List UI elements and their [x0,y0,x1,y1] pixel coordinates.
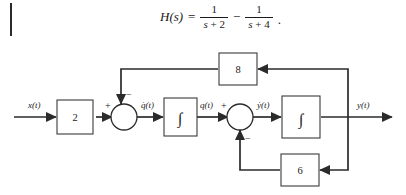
term1-den-variable: s [203,18,207,30]
equals-sign: = [188,9,195,25]
label-q-signal: q(t) [200,100,213,110]
fraction-term-2: 1 s + 4 [245,4,273,30]
wire-output-tap-to-gain6 [320,117,348,170]
summing-junction-1[interactable] [111,104,137,130]
term1-den-constant: 2 [219,18,225,30]
block-diagram: 2 ∫ ∫ 8 6 + − + − x(t) q̇(t) q(t) ẏ(t) … [0,48,406,195]
label-qdot-signal: q̇(t) [141,100,154,110]
summer2-plus-sign: + [221,100,227,111]
term1-den-operator: + [210,18,216,30]
label-output-signal: y(t) [356,100,370,110]
equation-terminator: . [278,12,281,30]
term2-denominator: s + 4 [245,18,273,31]
term2-den-operator: + [255,18,261,30]
figure-root: H(s) = 1 s + 2 − 1 s + 4 [0,0,406,195]
term1-numerator: 1 [207,4,221,17]
page-edge-rule [10,3,12,36]
term2-den-constant: 4 [264,18,270,30]
minus-operator: − [233,9,240,25]
fraction-term-1: 1 s + 2 [200,4,228,30]
label-ydot-signal: ẏ(t) [256,100,270,110]
gain-block-input-label: 2 [72,112,77,123]
summer1-minus-sign: − [126,89,132,100]
summer2-minus-sign: − [245,133,251,144]
transfer-function-equation: H(s) = 1 s + 2 − 1 s + 4 [160,4,281,30]
summer1-plus-sign: + [105,100,111,111]
equation-region: H(s) = 1 s + 2 − 1 s + 4 [0,0,406,48]
equation-lhs: H(s) [160,9,183,25]
gain-block-feedback-bottom-label: 6 [297,165,302,176]
summing-junction-2[interactable] [227,104,253,130]
term1-denominator: s + 2 [200,18,228,31]
term2-den-variable: s [248,18,252,30]
term2-numerator: 1 [252,4,266,17]
label-input-signal: x(t) [27,100,41,110]
gain-block-feedback-top-label: 8 [235,64,240,75]
